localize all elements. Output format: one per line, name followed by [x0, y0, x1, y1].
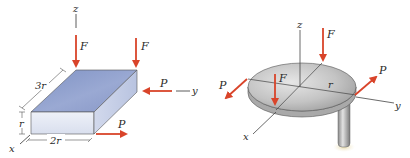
force-label-f2: F — [140, 40, 149, 53]
z-axis-label: z — [296, 19, 303, 30]
dimension-tick — [60, 68, 66, 72]
dimension-label-2r: 2r — [49, 135, 62, 146]
figure-disk: z x y r F F P P — [218, 19, 401, 152]
z-axis-label: z — [72, 3, 79, 14]
force-label-f1: F — [79, 40, 88, 53]
dimension-label-3r: 3r — [35, 80, 47, 91]
force-label-f-top: F — [326, 28, 335, 41]
force-label-p-right: P — [378, 64, 387, 77]
dimension-tick — [19, 106, 25, 110]
x-axis-label: x — [9, 143, 15, 154]
x-axis — [253, 112, 276, 134]
force-label-p-left: P — [218, 79, 227, 92]
diagram-canvas: z F F P y P 3r r 2r — [0, 0, 410, 158]
y-axis-label: y — [394, 100, 401, 111]
force-arrow-p-right — [355, 77, 376, 95]
x-axis-label: x — [243, 131, 249, 142]
force-label-p-bottom: P — [117, 118, 126, 131]
force-label-p-side: P — [159, 77, 168, 90]
force-label-f-inner: F — [278, 72, 287, 85]
y-axis-label: y — [191, 85, 198, 96]
block-front-face — [31, 112, 94, 134]
figure-block: z F F P y P 3r r 2r — [9, 3, 198, 154]
y-axis — [356, 97, 394, 103]
force-arrow-p-left — [226, 79, 247, 98]
